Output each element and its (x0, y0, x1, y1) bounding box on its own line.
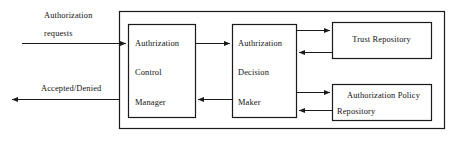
diagram-canvas: Authorization requests Accepted/Denied A… (0, 0, 464, 144)
diagram-graphics (0, 0, 464, 144)
authorization-policy-repository-line-2: Repository (337, 108, 375, 116)
authorization-policy-repository-line-1: Authorization Policy (334, 92, 433, 100)
accepted-denied-label: Accepted/Denied (41, 85, 101, 93)
authorization-requests-label-line1: Authorization (44, 12, 92, 20)
authorization-decision-maker-line-2: Decision (238, 69, 269, 77)
trust-repository-label: Trust Repository (332, 36, 431, 44)
authorization-control-manager-line-1: Authrization (135, 40, 179, 48)
authorization-control-manager-line-2: Control (135, 69, 162, 77)
authorization-decision-maker-line-3: Maker (238, 99, 261, 107)
authorization-requests-label-line2: requests (44, 30, 73, 38)
authorization-control-manager-line-3: Manager (135, 99, 166, 107)
authorization-decision-maker-line-1: Authrization (238, 40, 282, 48)
